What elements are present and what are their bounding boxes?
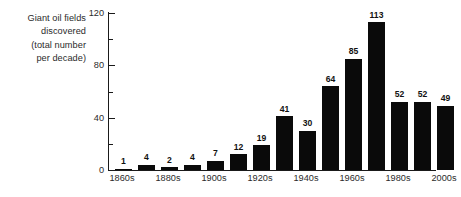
bar-slot: 7	[204, 13, 227, 170]
bar-value-label: 113	[365, 11, 388, 20]
bar-slot: 4	[181, 13, 204, 170]
bar-value-label: 4	[135, 153, 158, 162]
bar-slot: 41	[273, 13, 296, 170]
bar-value-label: 85	[342, 47, 365, 56]
caption-line-3: (total number	[0, 39, 86, 52]
y-axis-major-tick	[109, 170, 115, 171]
caption-line-1: Giant oil fields	[0, 12, 86, 25]
bar-value-label: 4	[181, 153, 204, 162]
bar-value-label: 2	[158, 156, 181, 165]
bar	[230, 154, 247, 170]
bar	[115, 169, 132, 171]
bar	[368, 22, 385, 170]
y-axis-tick-label: 40	[76, 114, 104, 123]
bar	[253, 145, 270, 170]
bar-slot: 52	[388, 13, 411, 170]
bar-value-label: 1	[112, 157, 135, 166]
bar	[138, 165, 155, 170]
x-axis-tick-label: 1880s	[145, 174, 191, 183]
bar-value-label: 52	[411, 90, 434, 99]
chart-caption: Giant oil fields discovered (total numbe…	[0, 12, 86, 66]
bar-value-label: 7	[204, 149, 227, 158]
bar-slot: 1	[112, 13, 135, 170]
plot-area: 14247121941306485113525249	[108, 13, 461, 170]
bar	[437, 106, 454, 170]
caption-line-2: discovered	[0, 25, 86, 38]
bar-value-label: 30	[296, 119, 319, 128]
bar	[345, 59, 362, 170]
bar	[184, 165, 201, 170]
bar	[276, 116, 293, 170]
bar	[391, 102, 408, 170]
bar-slot: 52	[411, 13, 434, 170]
y-axis-tick-label: 120	[76, 9, 104, 18]
caption-line-4: per decade)	[0, 52, 86, 65]
bar-value-label: 12	[227, 143, 250, 152]
bar	[161, 167, 178, 170]
x-axis-tick-label: 1920s	[237, 174, 283, 183]
bar-slot: 30	[296, 13, 319, 170]
y-axis-tick-label: 80	[76, 61, 104, 70]
bar	[299, 131, 316, 170]
x-axis-tick-label: 1860s	[99, 174, 145, 183]
bar-value-label: 49	[434, 94, 457, 103]
bar-slot: 49	[434, 13, 457, 170]
bar-value-label: 52	[388, 90, 411, 99]
bar-value-label: 19	[250, 134, 273, 143]
x-axis-tick-label: 1900s	[191, 174, 237, 183]
bar-value-label: 64	[319, 75, 342, 84]
x-axis-tick-label: 1940s	[283, 174, 329, 183]
x-axis-tick-label: 2000s	[421, 174, 461, 183]
bar-slot: 64	[319, 13, 342, 170]
bar	[207, 161, 224, 170]
bar-slot: 2	[158, 13, 181, 170]
x-axis-tick-label: 1960s	[329, 174, 375, 183]
x-axis-tick-label: 1980s	[375, 174, 421, 183]
x-axis-line	[108, 170, 436, 171]
bar-slot: 4	[135, 13, 158, 170]
bar	[414, 102, 431, 170]
bar-slot: 85	[342, 13, 365, 170]
bar-slot: 19	[250, 13, 273, 170]
bar-slot: 12	[227, 13, 250, 170]
bar-slot: 113	[365, 13, 388, 170]
bar	[322, 86, 339, 170]
bar-value-label: 41	[273, 105, 296, 114]
